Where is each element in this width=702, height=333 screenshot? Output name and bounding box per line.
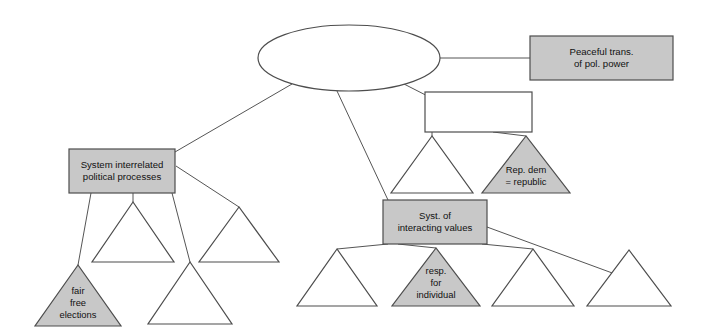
edge-values-to-tri-bottom-3: [482, 244, 533, 249]
edge-values-to-tri-bottom-4: [487, 227, 615, 274]
concept-map-diagram: Peaceful trans.of pol. powerSystem inter…: [0, 0, 702, 333]
edge-system-to-tri-left-mid: [176, 166, 239, 207]
peaceful-transition-box[interactable]: Peaceful trans.of pol. power: [530, 36, 673, 80]
empty-rectangle-node[interactable]: [425, 92, 532, 132]
edge-system-to-tri-left-lower: [172, 193, 190, 262]
unlabeled-triangle-bottom-third[interactable]: [492, 249, 574, 306]
rep-dem-republic-triangle-label: Rep. dem= republic: [506, 164, 547, 187]
concept-map-canvas: Peaceful trans.of pol. powerSystem inter…: [0, 0, 702, 333]
edge-values-to-tri-bottom-1: [337, 244, 388, 249]
unlabeled-triangle-left-lower[interactable]: [148, 262, 232, 324]
empty-rectangle-node-shape[interactable]: [425, 92, 532, 132]
unlabeled-triangle-bottom-fourth[interactable]: [587, 250, 671, 306]
peaceful-transition-box-label: Peaceful trans.of pol. power: [570, 46, 634, 69]
unlabeled-triangle-bottom-first[interactable]: [297, 249, 377, 306]
unlabeled-triangle-left-middle[interactable]: [199, 207, 279, 262]
rep-dem-republic-triangle[interactable]: Rep. dem= republic: [482, 136, 570, 193]
unlabeled-triangle-under-rectangle[interactable]: [391, 136, 473, 193]
system-interrelated-box-label: System interrelatedpolitical processes: [81, 159, 164, 182]
unlabeled-triangle-bottom-first-shape[interactable]: [297, 249, 377, 306]
fair-free-elections-triangle[interactable]: fairfreeelections: [35, 265, 121, 326]
nodes-layer: Peaceful trans.of pol. powerSystem inter…: [35, 25, 673, 326]
central-ellipse-node[interactable]: [258, 25, 440, 91]
unlabeled-triangle-left-middle-shape[interactable]: [199, 207, 279, 262]
unlabeled-triangle-under-rectangle-shape[interactable]: [391, 136, 473, 193]
unlabeled-triangle-bottom-fourth-shape[interactable]: [587, 250, 671, 306]
system-interrelated-box[interactable]: System interrelatedpolitical processes: [69, 149, 175, 193]
edge-ellipse-to-system-interrelated: [175, 84, 292, 152]
edge-system-to-fair-free-elections: [78, 193, 91, 265]
unlabeled-triangle-left-lower-shape[interactable]: [148, 262, 232, 324]
edge-ellipse-to-syst-interacting-values: [337, 91, 388, 200]
edge-empty-rect-to-rep-dem: [493, 132, 526, 136]
unlabeled-triangle-bottom-third-shape[interactable]: [492, 249, 574, 306]
unlabeled-triangle-left-upper-shape[interactable]: [92, 202, 174, 262]
unlabeled-triangle-left-upper[interactable]: [92, 202, 174, 262]
edge-values-to-resp-individual: [398, 244, 436, 248]
central-ellipse-node-shape[interactable]: [258, 25, 440, 91]
syst-interacting-values-box[interactable]: Syst. ofinteracting values: [383, 200, 487, 244]
resp-for-individual-triangle[interactable]: resp.forindividual: [392, 248, 480, 306]
